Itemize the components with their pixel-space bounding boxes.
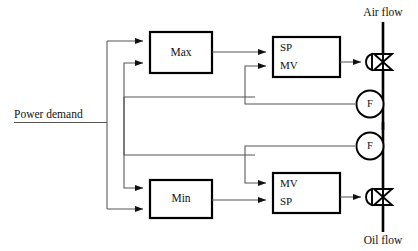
oil-flow-controller-block[interactable]: MV SP [273, 173, 340, 213]
min-block-label: Min [171, 192, 190, 204]
min-selector-block[interactable]: Min [150, 180, 212, 218]
max-block-label: Max [170, 46, 191, 58]
max-selector-block[interactable]: Max [150, 32, 212, 73]
oil-control-valve-icon[interactable] [366, 189, 392, 205]
air-flow-transmitter[interactable]: F [357, 91, 384, 118]
cross-limit-wiring [124, 63, 255, 188]
air-feedback-to-min-path [124, 97, 255, 188]
air-flow-label: Air flow [363, 6, 403, 18]
air-flow-controller-block[interactable]: SP MV [273, 37, 340, 77]
oil-feedback-to-max-path [124, 63, 255, 155]
oil-flow-label: Oil flow [364, 234, 403, 246]
oil-flow-transmitter[interactable]: F [357, 133, 384, 160]
control-diagram-canvas: Max Min SP MV MV SP [0, 0, 418, 251]
oil-valve-actuator [366, 189, 372, 205]
power-demand-label: Power demand [14, 108, 83, 120]
oil-flow-meter-label: F [367, 140, 373, 151]
air-flow-meter-label: F [367, 98, 373, 109]
air-control-valve-icon[interactable] [366, 54, 392, 70]
oil-controller-sp-label: SP [280, 195, 292, 207]
air-valve-actuator [366, 54, 372, 70]
process-control-diagram: Max Min SP MV MV SP [0, 0, 418, 251]
oil-controller-mv-label: MV [280, 177, 298, 189]
air-controller-sp-label: SP [280, 41, 292, 53]
air-controller-mv-label: MV [280, 59, 298, 71]
